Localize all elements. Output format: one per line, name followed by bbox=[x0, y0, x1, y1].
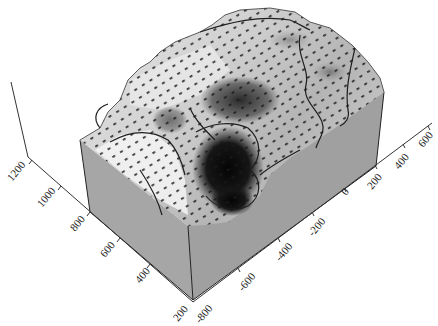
x-tick-label: 400 bbox=[391, 151, 411, 172]
x-tick-label: 600 bbox=[415, 129, 435, 150]
y-tick-label: 800 bbox=[67, 213, 87, 234]
y-tick-label: 200 bbox=[170, 303, 190, 324]
y-tick-label: 600 bbox=[97, 239, 117, 260]
x-tick-label: -200 bbox=[305, 215, 327, 239]
y-tick-label: 400 bbox=[132, 265, 152, 286]
z-axis-line bbox=[11, 82, 28, 157]
x-tick-label: -400 bbox=[272, 240, 294, 264]
x-tick-label: -600 bbox=[235, 270, 257, 294]
terrain-3d-chart: 1200 1000 800 600 400 200 -800 -600 -400… bbox=[0, 0, 438, 326]
x-tick-label: 200 bbox=[364, 171, 384, 192]
y-tick-label: 1200 bbox=[4, 158, 28, 183]
x-tick-label: -800 bbox=[192, 302, 214, 326]
z-axis bbox=[11, 82, 28, 157]
y-tick-label: 1000 bbox=[34, 184, 58, 209]
